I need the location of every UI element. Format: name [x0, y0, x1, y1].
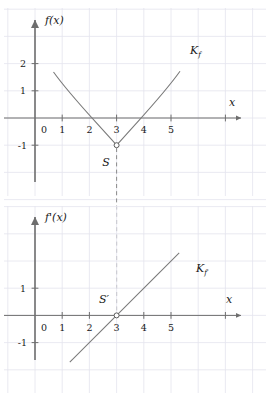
lower-xtick-5: 5 [168, 322, 174, 333]
upper-ytick-1: 1 [20, 85, 26, 96]
zero-label-s-prime: S′ [99, 293, 110, 306]
lower-x-axis-label: x [226, 293, 233, 306]
lower-y-axis-label: f'(x) [44, 211, 67, 224]
upper-xtick-1: 1 [59, 124, 65, 135]
upper-xtick-3: 3 [114, 124, 120, 135]
upper-xtick-5: 5 [168, 124, 174, 135]
vertex-marker-s [114, 143, 119, 148]
upper-xtick-0: 0 [41, 124, 47, 135]
upper-gridlines [4, 8, 266, 200]
zero-marker-s-prime [114, 313, 119, 318]
lower-xtick-3: 3 [114, 322, 120, 333]
lower-ytick-1: 1 [20, 283, 26, 294]
vertex-label-s: S [102, 156, 110, 169]
upper-xtick-4: 4 [141, 124, 147, 135]
lower-xtick-2: 2 [86, 322, 92, 333]
upper-y-axis-label: f(x) [44, 14, 64, 27]
upper-ytick-minus1: -1 [18, 140, 27, 151]
upper-plot: 0 1 2 3 4 5 2 1 -1 f(x) x S Kf [4, 8, 266, 200]
lower-plot: 0 1 2 3 4 5 1 -1 f'(x) x S′ Kf′ [4, 206, 266, 393]
curve-label-kf: Kf [189, 44, 202, 59]
derivative-line [70, 253, 179, 362]
lower-xtick-4: 4 [141, 322, 147, 333]
curve-label-kfprime: Kf′ [195, 262, 209, 277]
math-figure: 0 1 2 3 4 5 2 1 -1 f(x) x S Kf [0, 0, 269, 397]
lower-xtick-1: 1 [59, 322, 65, 333]
upper-x-axis-label: x [229, 96, 236, 109]
lower-xtick-0: 0 [41, 322, 47, 333]
figure-canvas: 0 1 2 3 4 5 2 1 -1 f(x) x S Kf [0, 0, 269, 397]
upper-xtick-2: 2 [86, 124, 92, 135]
upper-ytick-2: 2 [20, 58, 26, 69]
lower-ytick-minus1: -1 [18, 337, 27, 348]
